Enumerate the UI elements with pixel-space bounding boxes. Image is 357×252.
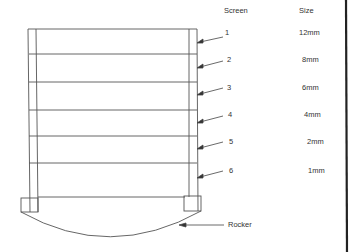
screen-number: 6 — [229, 166, 233, 175]
rocker-label: Rocker — [228, 220, 252, 229]
screen-number: 2 — [227, 55, 231, 64]
frame-left-inner — [36, 29, 38, 212]
screen-size: 12mm — [299, 28, 320, 37]
frame-left-outer — [28, 29, 30, 212]
arrow-screen-5 — [200, 142, 223, 148]
arrow-screen-4 — [200, 116, 223, 122]
right-border — [346, 0, 347, 252]
arrow-screen-1 — [200, 37, 223, 42]
screen-size: 6mm — [302, 83, 319, 92]
screen-size: 2mm — [307, 137, 324, 146]
screen-number: 3 — [227, 83, 231, 92]
arrow-screen-6 — [200, 171, 223, 177]
screen-number: 5 — [229, 137, 233, 146]
screen-size: 4mm — [304, 110, 321, 119]
screen-number: 4 — [228, 110, 232, 119]
header-screen: Screen — [224, 6, 248, 15]
arrow-screen-3 — [200, 88, 223, 94]
frame-right-outer — [197, 29, 198, 211]
rocker-foot-right — [184, 196, 201, 211]
rocker-curve — [21, 211, 201, 237]
sieve-stack-diagram — [0, 0, 357, 252]
screen-number: 1 — [225, 28, 229, 37]
header-size: Size — [299, 6, 314, 15]
arrow-screen-2 — [200, 61, 223, 67]
screen-size: 1mm — [308, 166, 325, 175]
screen-size: 8mm — [302, 55, 319, 64]
